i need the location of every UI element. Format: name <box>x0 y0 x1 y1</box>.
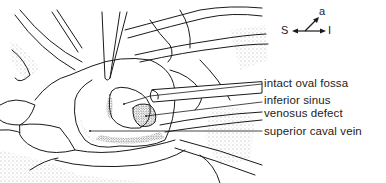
label-inferior-sinus-venosus-defect-line1: inferior sinus <box>264 94 331 106</box>
label-superior-caval-vein: superior caval vein <box>264 125 362 137</box>
label-intact-oval-fossa: intact oval fossa <box>264 77 348 89</box>
orientation-compass <box>292 17 326 34</box>
compass-label-inferior: I <box>328 24 331 36</box>
label-inferior-sinus-venosus-defect-line2: venosus defect <box>264 107 343 119</box>
compass-label-superior: S <box>281 24 288 36</box>
illustration-drawing <box>0 7 268 183</box>
compass-label-anterior: a <box>319 5 325 17</box>
